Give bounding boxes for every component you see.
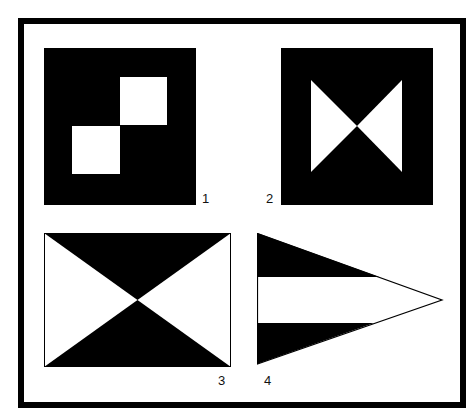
flag-1 (44, 48, 196, 205)
flag-3 (44, 233, 231, 367)
flag-2-label: 2 (266, 192, 273, 205)
flag-4-label: 4 (264, 374, 271, 387)
flag-3-label: 3 (218, 374, 225, 387)
flag-1-label: 1 (202, 192, 209, 205)
flag-4 (257, 233, 445, 367)
flag-2 (281, 48, 433, 205)
